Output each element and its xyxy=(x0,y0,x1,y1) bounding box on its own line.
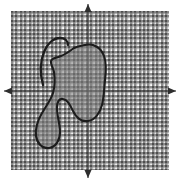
shaded-region-layer xyxy=(0,0,182,185)
shaded-region xyxy=(36,45,106,149)
figure-container xyxy=(0,0,182,185)
